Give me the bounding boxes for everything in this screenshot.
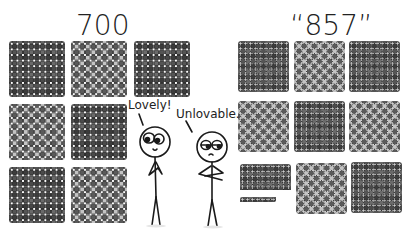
dot-block: [238, 101, 289, 152]
right-title: “857”: [290, 12, 372, 40]
dot-block: [296, 163, 347, 214]
stick-figures: [125, 100, 245, 230]
dot-block: [9, 41, 65, 97]
dot-block: [71, 41, 127, 97]
speech-pointer-right: [186, 121, 192, 132]
partial-dot-block: [240, 164, 291, 190]
dot-block: [134, 41, 190, 97]
dot-block: [9, 104, 65, 160]
dot-block: [238, 41, 289, 92]
dot-block: [294, 41, 345, 92]
dot-block: [294, 101, 345, 152]
dot-block: [349, 41, 400, 92]
dot-block: [9, 167, 65, 223]
grumpy-figure: [197, 132, 227, 226]
dot-block: [71, 104, 127, 160]
dot-block: [349, 101, 400, 152]
speech-pointer-left: [139, 114, 143, 125]
happy-figure: [140, 127, 170, 225]
partial-dot-row: [240, 197, 276, 202]
dot-block: [71, 167, 127, 223]
left-title: 700: [76, 12, 129, 40]
dot-block: [351, 162, 402, 213]
